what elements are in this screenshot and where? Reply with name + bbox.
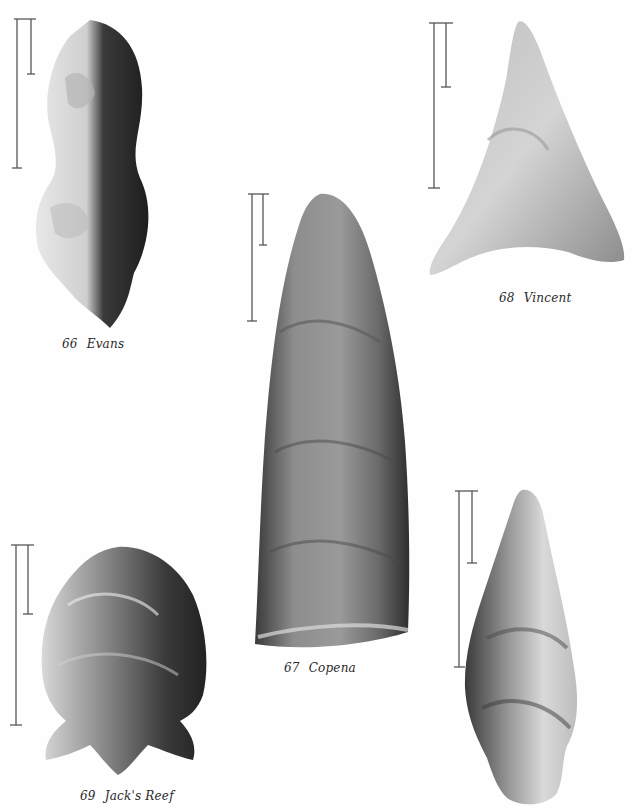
artifact-copena [250,192,420,654]
artifact-plate: 66Evans [0,0,641,808]
figure-number: 67 [284,661,300,675]
scale-bar-69 [8,544,38,728]
figure-name: Copena [309,661,356,675]
artifact-vincent [428,20,628,282]
figure-name: Vincent [524,291,572,305]
caption-69: 69Jack's Reef [80,789,174,803]
figure-name: Evans [87,337,125,351]
figure-name: Jack's Reef [105,789,174,803]
artifact-unlabeled [462,488,602,808]
figure-number: 68 [499,291,515,305]
caption-66: 66Evans [62,337,124,351]
artifact-jacks-reef [38,545,213,777]
figure-number: 69 [80,789,96,803]
caption-67: 67Copena [284,661,356,675]
figure-number: 66 [62,337,78,351]
artifact-evans [30,18,170,333]
caption-68: 68Vincent [499,291,571,305]
